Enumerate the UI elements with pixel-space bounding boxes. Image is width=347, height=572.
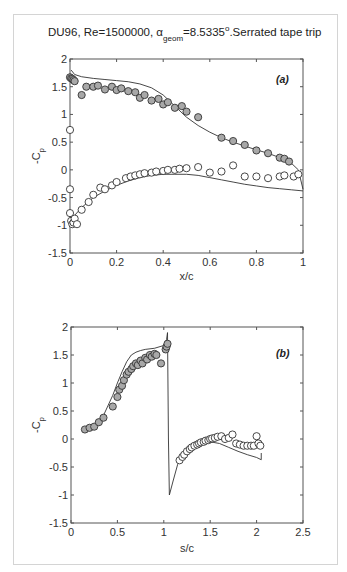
cp-distribution-figure: DU96, Re=1500000, αgeom=8.5335o.Serrated… [0,0,347,572]
suction-side-marker [100,414,107,421]
suction-side-marker [183,108,190,115]
pressure-side-marker [153,168,160,175]
x-tick-label: 0 [67,256,73,268]
suction-side-marker [157,360,164,367]
y-tick-label: -0.5 [48,192,67,204]
suction-side-marker [101,86,108,93]
x-axis-label: s/c [180,542,195,554]
x-tick-label: 2.5 [295,526,310,538]
pressure-side-marker [183,165,190,172]
pressure-side-marker [164,166,171,173]
pressure-side-marker [101,186,108,193]
suction-side-marker [125,88,132,95]
suction-side-marker [230,137,237,144]
y-axis-label: -Cp [30,416,46,433]
y-tick-label: 1.5 [53,349,68,361]
pressure-side-marker [257,442,264,449]
suction-side-marker [264,150,271,157]
pressure-side-marker [218,168,225,175]
suction-side-marker [83,83,90,90]
suction-side-marker [153,351,160,358]
suction-side-marker [141,91,148,98]
x-tick-label: 0 [68,526,74,538]
y-tick-label: -0.5 [49,461,68,473]
title-main: DU96, Re=1500000, α [48,26,163,38]
pressure-side-marker [264,175,271,182]
suction-side-marker [118,85,125,92]
suction-side-marker [164,99,171,106]
y-tick-label: -1.5 [48,247,67,259]
suction-side-marker [241,141,248,148]
x-tick-label: 0.5 [110,526,125,538]
plot-a: 00.20.40.60.81-1.5-1-0.500.511.52x/c-Cp(… [30,53,306,282]
x-tick-label: 0.4 [156,256,171,268]
y-tick-label: 0.5 [52,136,67,148]
title-subscript: geom [163,34,183,43]
pressure-side-marker [253,433,260,440]
pressure-side-marker [206,169,213,176]
x-tick-label: 1 [300,256,306,268]
y-tick-label: -1 [58,489,68,501]
suction-side-marker [148,97,155,104]
y-tick-label: 1 [62,377,68,389]
pressure-side-marker [241,173,248,180]
x-tick-label: 0.6 [202,256,217,268]
pressure-side-marker [295,171,302,178]
x-tick-label: 1 [161,526,167,538]
x-tick-label: 0.8 [249,256,264,268]
pressure-side-marker [66,126,73,133]
title-angle: =8.5335 [183,26,225,38]
suction-side-marker [114,393,121,400]
suction-side-marker [71,78,78,85]
suction-side-marker [218,134,225,141]
pressure-side-marker [195,163,202,170]
pressure-side-marker [78,206,85,213]
panel-label: (a) [276,73,289,85]
plot-b: 00.511.522.5-1.5-1-0.500.511.52s/c-Cp(b) [30,321,311,554]
pressure-side-marker [281,172,288,179]
pressure-side-marker [229,431,236,438]
y-tick-label: -1 [57,219,67,231]
pressure-side-marker [176,165,183,172]
pressure-side-marker [90,191,97,198]
pressure-side-marker [230,162,237,169]
y-axis-label: -Cp [30,147,46,164]
y-tick-label: 1.5 [52,81,67,93]
panel-label: (b) [276,347,290,359]
y-tick-label: 0 [61,164,67,176]
y-tick-label: 2 [62,321,68,333]
suction-side-marker [78,91,85,98]
figure-title: DU96, Re=1500000, αgeom=8.5335o.Serrated… [48,24,321,43]
suction-side-marker [285,158,292,165]
x-tick-label: 2 [254,526,260,538]
x-axis-label: x/c [179,270,194,282]
y-tick-label: 0 [62,433,68,445]
pressure-side-marker [113,178,120,185]
suction-side-marker [94,82,101,89]
suction-side-marker [253,147,260,154]
y-tick-label: 1 [61,108,67,120]
pressure-side-marker [73,221,80,228]
pressure-side-marker [141,170,148,177]
y-tick-label: 0.5 [53,405,68,417]
x-tick-label: 0.2 [109,256,124,268]
y-tick-label: -1.5 [49,517,68,529]
suction-side-marker [164,340,171,347]
plot-area [71,327,303,523]
title-end: .Serrated tape trip [229,26,321,38]
pressure-side-marker [66,186,73,193]
pressure-side-marker [85,198,92,205]
suction-side-marker [171,104,178,111]
x-tick-label: 1.5 [203,526,218,538]
pressure-side-marker [253,173,260,180]
y-tick-label: 2 [61,53,67,65]
suction-side-marker [109,403,116,410]
suction-side-marker [195,114,202,121]
